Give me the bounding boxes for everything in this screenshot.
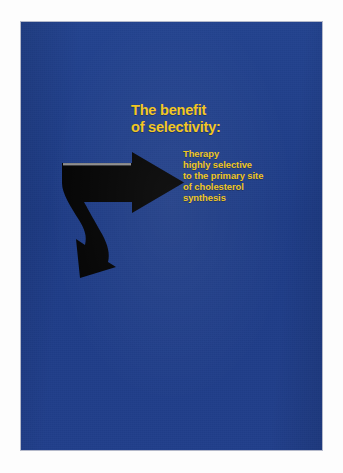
curved-right-arrow-icon: [58, 150, 188, 278]
arrow-shaft-highlight-soft: [63, 165, 131, 166]
arrow-body: [62, 152, 184, 278]
body-line-4: of cholesterol: [183, 181, 315, 192]
body-line-5: synthesis: [183, 192, 315, 203]
headline-line-2: of selectivity:: [131, 119, 311, 136]
headline-line-1: The benefit: [131, 102, 311, 119]
poster-panel: The benefit of selectivity: Therapy high…: [21, 22, 322, 450]
arrow-shaft-highlight: [63, 163, 131, 165]
body-line-3: to the primary site: [183, 170, 315, 181]
page-title: The benefit of selectivity:: [131, 102, 311, 135]
body-line-2: highly selective: [183, 159, 315, 170]
body-copy: Therapy highly selective to the primary …: [183, 148, 315, 203]
slide-root: The benefit of selectivity: Therapy high…: [0, 0, 343, 473]
body-line-1: Therapy: [183, 148, 315, 159]
